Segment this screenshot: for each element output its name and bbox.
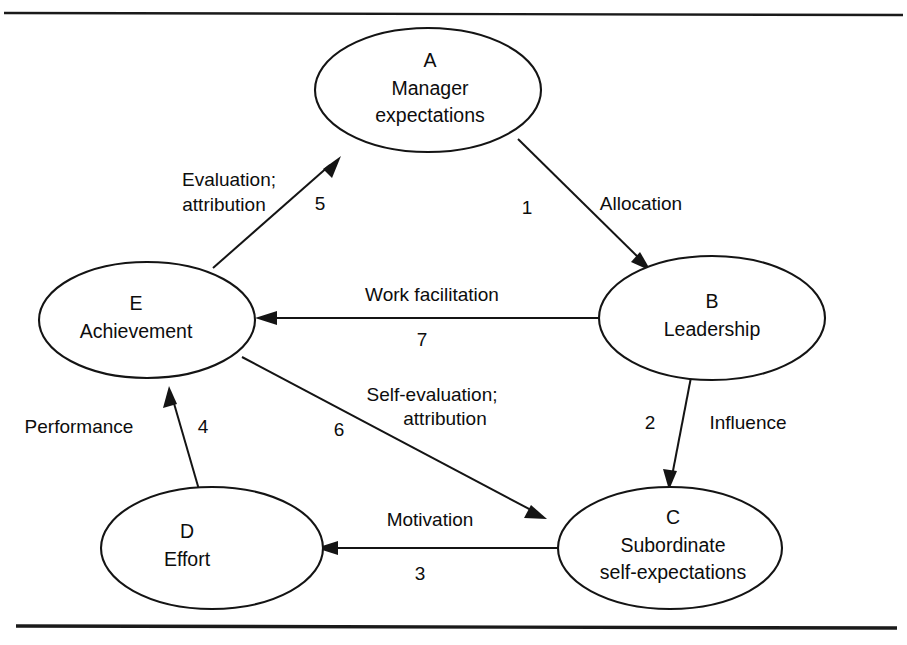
node-e-line1: Achievement [80,320,193,342]
edge-5-label-line2: attribution [182,194,265,215]
top-rule [4,13,903,15]
node-a-manager-expectations[interactable]: A Manager expectations [315,28,541,152]
edge-7-arrowhead [255,311,277,325]
edge-6-number: 6 [334,419,345,440]
edge-7-label: Work facilitation [365,284,499,305]
node-c-line1: Subordinate [620,534,725,556]
edge-5-number: 5 [315,193,326,214]
edge-5-evaluation: Evaluation; attribution 5 [182,156,341,268]
node-c-subordinate-self-expectations[interactable]: C Subordinate self-expectations [558,487,782,609]
node-d-line1: Effort [164,548,211,570]
bottom-rule [16,626,897,628]
node-e-achievement[interactable]: E Achievement [39,262,255,378]
edge-6-label-line2: attribution [403,408,486,429]
node-a-line1: Manager [392,77,469,99]
edge-3-motivation: Motivation 3 [316,509,572,584]
edge-5-label-line1: Evaluation; [182,169,276,190]
node-b-leadership[interactable]: B Leadership [599,256,825,380]
node-d-ellipse[interactable] [101,487,323,609]
node-b-letter: B [705,290,718,312]
node-a-line2: expectations [375,104,485,126]
figure-root: 1 Allocation 2 Influence Motivation 3 Pe… [0,0,907,645]
edge-4-performance: Performance 4 [25,386,209,500]
edge-1-allocation: 1 Allocation [518,139,682,271]
edge-4-line [173,400,202,500]
node-b-line1: Leadership [664,318,761,340]
edge-2-line [672,372,692,476]
node-d-letter: D [180,520,194,542]
edge-7-work-facilitation: Work facilitation 7 [255,284,599,350]
node-a-letter: A [423,49,436,71]
edge-7-number: 7 [417,329,428,350]
edge-4-number: 4 [198,416,209,437]
edge-1-label: Allocation [600,193,682,214]
cycle-diagram: 1 Allocation 2 Influence Motivation 3 Pe… [0,0,907,645]
edge-3-number: 3 [415,563,426,584]
edge-2-number: 2 [645,412,656,433]
edge-6-line [242,357,533,511]
node-c-line2: self-expectations [600,561,747,583]
edge-1-number: 1 [522,197,533,218]
edge-5-arrowhead [323,156,341,178]
node-d-effort[interactable]: D Effort [101,487,323,609]
edge-2-label: Influence [709,412,786,433]
edge-4-label: Performance [25,416,134,437]
edge-6-label-line1: Self-evaluation; [367,384,498,405]
node-c-letter: C [666,506,680,528]
edge-2-influence: 2 Influence [645,372,787,490]
edge-3-label: Motivation [387,509,474,530]
edge-6-self-evaluation: Self-evaluation; attribution 6 [242,357,547,519]
node-e-letter: E [129,292,142,314]
